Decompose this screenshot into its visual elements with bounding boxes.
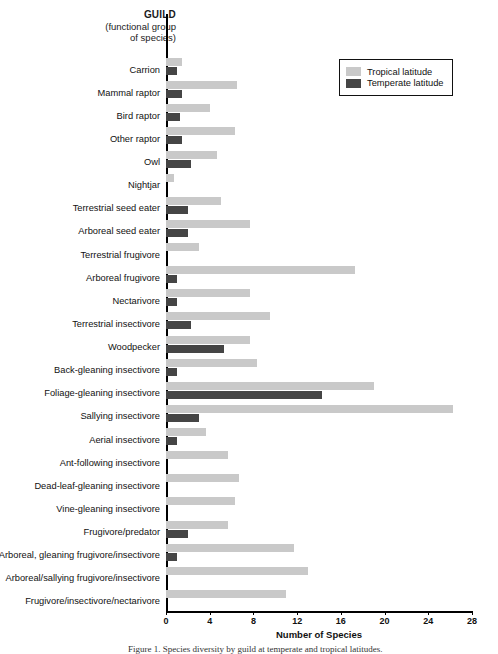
bar-temperate bbox=[166, 368, 177, 376]
bar-temperate bbox=[166, 160, 191, 168]
x-axis-tick-label: 20 bbox=[380, 616, 390, 626]
y-axis-label: Woodpecker bbox=[108, 342, 160, 352]
bar-temperate bbox=[166, 553, 177, 561]
chart-row: Sallying insectivore bbox=[166, 405, 472, 428]
bar-tropical bbox=[166, 405, 453, 413]
chart-row: Back-gleaning insectivore bbox=[166, 359, 472, 382]
bar-temperate bbox=[166, 321, 191, 329]
chart-row: Nightjar bbox=[166, 174, 472, 197]
bar-tropical bbox=[166, 567, 308, 575]
page-subtitle-2: of species) bbox=[0, 32, 176, 44]
x-axis-tick-label: 4 bbox=[207, 616, 212, 626]
bar-temperate bbox=[166, 530, 188, 538]
x-axis-tick bbox=[428, 611, 429, 615]
chart-row: Arboreal, gleaning frugivore/insectivore bbox=[166, 544, 472, 567]
x-axis-tick-label: 16 bbox=[336, 616, 346, 626]
bar-tropical bbox=[166, 151, 217, 159]
bar-temperate bbox=[166, 275, 177, 283]
bar-tropical bbox=[166, 220, 250, 228]
chart-row: Arboreal/sallying frugivore/insectivore bbox=[166, 567, 472, 590]
y-axis-label: Arboreal/sallying frugivore/insectivore bbox=[5, 573, 160, 583]
bar-tropical bbox=[166, 289, 250, 297]
bar-tropical bbox=[166, 428, 206, 436]
chart-row: Owl bbox=[166, 151, 472, 174]
chart-row: Woodpecker bbox=[166, 336, 472, 359]
legend-label-temperate: Temperate latitude bbox=[367, 78, 444, 88]
bar-tropical bbox=[166, 474, 239, 482]
legend-swatch-temperate-icon bbox=[346, 79, 361, 88]
figure-caption: Figure 1. Species diversity by guild at … bbox=[128, 644, 498, 654]
chart-row: Terrestrial frugivore bbox=[166, 243, 472, 266]
plot-area: CarrionMammal raptorBird raptorOther rap… bbox=[166, 57, 472, 612]
y-axis-label: Bird raptor bbox=[117, 111, 160, 121]
y-axis-label: Sallying insectivore bbox=[80, 411, 160, 421]
chart-row: Ant-following insectivore bbox=[166, 451, 472, 474]
bar-tropical bbox=[166, 359, 257, 367]
page-subtitle-1: (functional group bbox=[0, 21, 176, 33]
bar-temperate bbox=[166, 113, 180, 121]
page-title: GUILD bbox=[0, 9, 176, 21]
x-axis-tick-label: 12 bbox=[292, 616, 302, 626]
x-axis-tick-label: 28 bbox=[467, 616, 477, 626]
y-axis-label: Other raptor bbox=[110, 134, 160, 144]
chart-row: Arboreal seed eater bbox=[166, 220, 472, 243]
bar-temperate bbox=[166, 90, 182, 98]
y-axis-label: Back-gleaning insectivore bbox=[54, 365, 160, 375]
bar-tropical bbox=[166, 104, 210, 112]
y-axis-label: Carrion bbox=[130, 65, 160, 75]
legend: Tropical latitude Temperate latitude bbox=[339, 59, 453, 96]
bar-temperate bbox=[166, 391, 322, 399]
y-axis-label: Owl bbox=[144, 157, 160, 167]
legend-label-tropical: Tropical latitude bbox=[367, 67, 432, 77]
x-axis-tick-label: 24 bbox=[423, 616, 433, 626]
x-axis-tick bbox=[385, 611, 386, 615]
y-axis-label: Terrestrial frugivore bbox=[80, 250, 160, 260]
y-axis-label: Foliage-gleaning insectivore bbox=[44, 388, 160, 398]
legend-item-temperate: Temperate latitude bbox=[346, 78, 444, 88]
x-axis-tick bbox=[297, 611, 298, 615]
x-axis-title: Number of Species bbox=[166, 629, 472, 640]
y-axis-label: Frugivore/predator bbox=[84, 527, 160, 537]
bar-temperate bbox=[166, 298, 177, 306]
y-axis-label: Mammal raptor bbox=[97, 88, 160, 98]
bar-tropical bbox=[166, 127, 235, 135]
chart-row: Frugivore/insectivore/nectarivore bbox=[166, 590, 472, 613]
chart-row: Aerial insectivore bbox=[166, 428, 472, 451]
bar-tropical bbox=[166, 497, 235, 505]
y-axis-label: Terrestrial insectivore bbox=[72, 319, 160, 329]
chart-title-block: GUILD (functional group of species) bbox=[0, 9, 176, 44]
bar-tropical bbox=[166, 243, 199, 251]
y-axis-label: Nectarivore bbox=[112, 296, 160, 306]
chart-row: Arboreal frugivore bbox=[166, 266, 472, 289]
x-axis-tick bbox=[210, 611, 211, 615]
chart-row: Other raptor bbox=[166, 127, 472, 150]
legend-swatch-tropical-icon bbox=[346, 67, 361, 76]
bar-temperate bbox=[166, 229, 188, 237]
bar-tropical bbox=[166, 521, 228, 529]
y-axis-label: Vine-gleaning insectivore bbox=[56, 504, 160, 514]
x-axis-tick bbox=[341, 611, 342, 615]
x-axis-tick-label: 0 bbox=[163, 616, 168, 626]
bar-tropical bbox=[166, 336, 250, 344]
bar-tropical bbox=[166, 81, 237, 89]
bar-tropical bbox=[166, 590, 286, 598]
bar-tropical bbox=[166, 451, 228, 459]
chart-row: Terrestrial insectivore bbox=[166, 312, 472, 335]
x-axis-tick bbox=[253, 611, 254, 615]
x-axis-tick bbox=[166, 611, 167, 615]
chart-row: Bird raptor bbox=[166, 104, 472, 127]
bar-tropical bbox=[166, 382, 374, 390]
chart-row: Terrestrial seed eater bbox=[166, 197, 472, 220]
bar-temperate bbox=[166, 345, 224, 353]
legend-item-tropical: Tropical latitude bbox=[346, 67, 444, 77]
bar-tropical bbox=[166, 266, 355, 274]
chart-row: Dead-leaf-gleaning insectivore bbox=[166, 474, 472, 497]
y-axis-label: Nightjar bbox=[128, 180, 160, 190]
x-axis-tick-label: 8 bbox=[251, 616, 256, 626]
bar-tropical bbox=[166, 58, 182, 66]
y-axis-label: Arboreal frugivore bbox=[86, 273, 160, 283]
y-axis-label: Terrestrial seed eater bbox=[73, 203, 160, 213]
bar-tropical bbox=[166, 312, 270, 320]
y-axis-label: Arboreal seed eater bbox=[78, 226, 160, 236]
